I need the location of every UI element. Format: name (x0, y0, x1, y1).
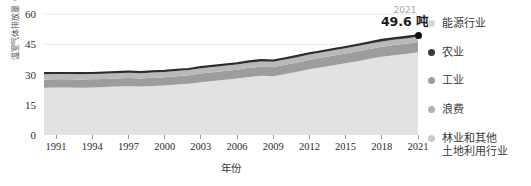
legend-item[interactable]: 林业和其他 土地利用行业 (428, 132, 508, 158)
x-axis-tick: 2006 (217, 135, 257, 152)
x-axis-tick: 2009 (253, 135, 293, 152)
tick-mark (309, 135, 310, 139)
x-axis-title: 年份 (44, 160, 418, 175)
x-axis-tick: 1991 (36, 135, 76, 152)
x-axis-tick: 2012 (289, 135, 329, 152)
x-axis-tick-label: 2009 (253, 141, 293, 152)
tick-mark (418, 135, 419, 139)
y-axis-tick-label: 30 (0, 69, 40, 81)
tick-mark (200, 135, 201, 139)
legend-item[interactable]: 工业 (428, 74, 464, 87)
x-axis-tick-label: 1997 (108, 141, 148, 152)
x-axis-tick-label: 2018 (362, 141, 402, 152)
y-axis-tick-labels: 015304560 (0, 0, 40, 150)
y-axis-tick-label: 0 (0, 129, 40, 141)
x-axis-tick: 1994 (72, 135, 112, 152)
x-axis-tick-label: 2006 (217, 141, 257, 152)
tick-mark (164, 135, 165, 139)
chart-screenshot: 温室气体排放量（吨/人） 015304560 19911994199720002… (0, 0, 531, 186)
legend-color-swatch (428, 106, 435, 113)
x-axis-tick: 2018 (362, 135, 402, 152)
tick-mark (345, 135, 346, 139)
legend-label: 农业 (442, 46, 464, 59)
tick-mark (128, 135, 129, 139)
legend-label: 能源行业 (442, 17, 486, 30)
tick-mark (56, 135, 57, 139)
x-axis-tick-label: 1991 (36, 141, 76, 152)
tick-mark (381, 135, 382, 139)
x-axis-tick-label: 2000 (145, 141, 185, 152)
x-axis-tick-label: 2012 (289, 141, 329, 152)
x-axis-tick: 2000 (145, 135, 185, 152)
legend-item[interactable]: 农业 (428, 46, 464, 59)
stacked-area-svg (44, 8, 418, 135)
x-axis-tick-labels: 1991199419972000200320062009201220152018… (44, 135, 418, 155)
legend-item[interactable]: 能源行业 (428, 17, 486, 30)
legend-label: 工业 (442, 74, 464, 87)
tick-mark (237, 135, 238, 139)
x-axis-tick-label: 2003 (181, 141, 221, 152)
legend-color-swatch (428, 20, 435, 27)
x-axis-tick: 2015 (326, 135, 366, 152)
tick-mark (92, 135, 93, 139)
x-axis-tick-label: 1994 (72, 141, 112, 152)
x-axis-tick-label: 2015 (326, 141, 366, 152)
y-axis-tick-label: 45 (0, 38, 40, 50)
chart-plot-area (44, 8, 418, 135)
chart-legend: 能源行业农业工业浪费林业和其他 土地利用行业 (428, 8, 531, 178)
x-axis-tick: 1997 (108, 135, 148, 152)
x-axis-tick: 2003 (181, 135, 221, 152)
y-axis-tick-label: 15 (0, 99, 40, 111)
legend-label: 林业和其他 土地利用行业 (442, 132, 508, 158)
tick-mark (273, 135, 274, 139)
legend-label: 浪费 (442, 103, 464, 116)
legend-color-swatch (428, 135, 435, 142)
y-axis-tick-label: 60 (0, 8, 40, 20)
legend-color-swatch (428, 77, 435, 84)
annotation-dot-marker (415, 32, 422, 39)
legend-item[interactable]: 浪费 (428, 103, 464, 116)
legend-color-swatch (428, 49, 435, 56)
